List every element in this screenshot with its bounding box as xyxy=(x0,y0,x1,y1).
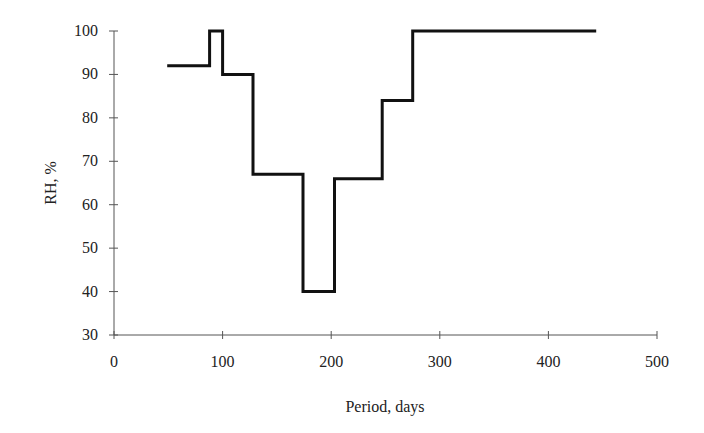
x-axis-label: Period, days xyxy=(345,398,424,416)
y-tick-label: 80 xyxy=(82,109,98,126)
series-line-rh xyxy=(167,31,596,292)
y-tick-label: 100 xyxy=(74,22,98,39)
x-tick-label: 400 xyxy=(536,353,560,370)
series xyxy=(167,31,596,292)
y-tick-label: 30 xyxy=(82,326,98,343)
ticks: 010020030040050030405060708090100 xyxy=(74,22,669,370)
y-tick-label: 60 xyxy=(82,196,98,213)
x-tick-label: 0 xyxy=(110,353,118,370)
y-tick-label: 70 xyxy=(82,152,98,169)
x-tick-label: 300 xyxy=(428,353,452,370)
rh-step-chart: 010020030040050030405060708090100 Period… xyxy=(0,0,704,433)
y-axis-label: RH, % xyxy=(42,161,59,205)
y-tick-label: 50 xyxy=(82,239,98,256)
y-tick-label: 40 xyxy=(82,283,98,300)
x-tick-label: 200 xyxy=(319,353,343,370)
axes xyxy=(114,31,657,335)
x-tick-label: 100 xyxy=(211,353,235,370)
x-tick-label: 500 xyxy=(645,353,669,370)
y-tick-label: 90 xyxy=(82,65,98,82)
